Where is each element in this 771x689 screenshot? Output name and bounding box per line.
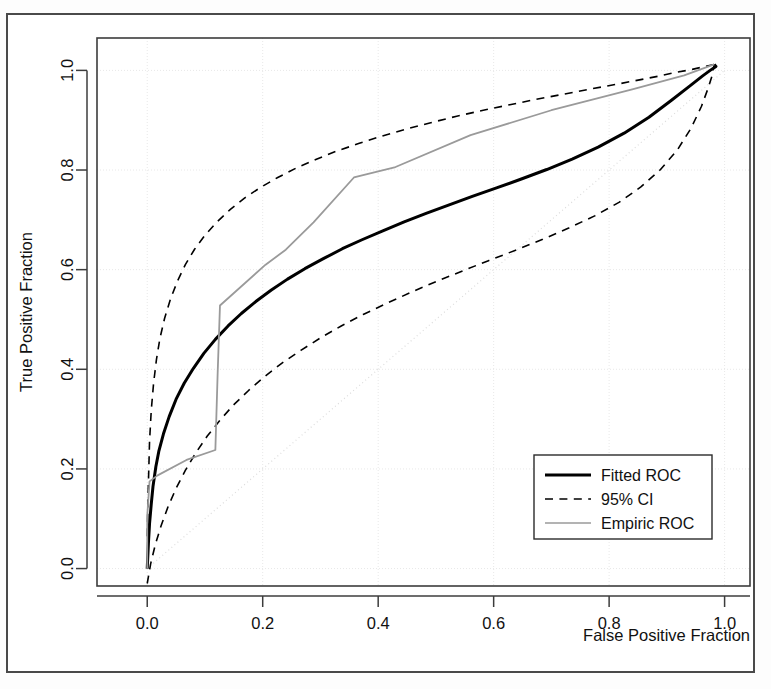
y-tick-label: 0.2 — [58, 457, 76, 480]
axis-tick-labels: 0.00.20.40.60.81.00.00.20.40.60.81.0 — [58, 59, 736, 632]
legend-item-label: Fitted ROC — [601, 467, 681, 484]
x-tick-label: 0.0 — [136, 614, 159, 632]
legend-item-label: Empiric ROC — [601, 515, 694, 532]
chart-legend[interactable]: Fitted ROC95% CIEmpiric ROC — [534, 455, 712, 539]
legend-item-label: 95% CI — [601, 491, 653, 508]
roc-chart: 0.00.20.40.60.81.00.00.20.40.60.81.0 Fal… — [0, 0, 771, 689]
y-tick-label: 0.6 — [58, 258, 76, 281]
y-tick-label: 0.4 — [58, 358, 76, 381]
x-axis-title: False Positive Fraction — [583, 626, 750, 644]
y-axis-title: True Positive Fraction — [17, 232, 35, 392]
y-tick-label: 0.8 — [58, 159, 76, 182]
x-tick-label: 0.2 — [251, 614, 274, 632]
y-tick-label: 1.0 — [58, 59, 76, 82]
page-canvas: 0.00.20.40.60.81.00.00.20.40.60.81.0 Fal… — [0, 0, 771, 689]
x-tick-label: 0.6 — [482, 614, 505, 632]
x-tick-label: 0.4 — [367, 614, 390, 632]
y-tick-label: 0.0 — [58, 557, 76, 580]
